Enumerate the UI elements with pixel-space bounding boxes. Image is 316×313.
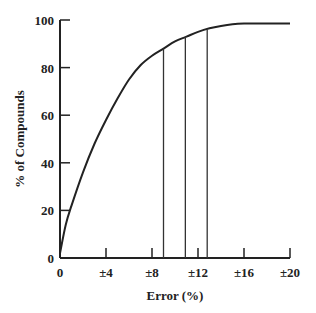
x-axis-title: Error (%) — [147, 288, 204, 303]
x-tick-label: ±12 — [188, 265, 208, 280]
x-tick-label: ±8 — [145, 265, 159, 280]
x-tick-label: 0 — [57, 265, 64, 280]
x-tick-label: ±4 — [99, 265, 113, 280]
y-tick-label: 20 — [41, 203, 54, 218]
chart: 0204060801000±4±8±12±16±20 Error (%) % o… — [0, 0, 316, 313]
y-tick-label: 40 — [41, 156, 54, 171]
plot-area — [60, 24, 290, 258]
y-tick-label: 100 — [35, 13, 55, 28]
y-tick-label: 0 — [48, 251, 55, 266]
x-tick-label: ±20 — [280, 265, 300, 280]
axes: 0204060801000±4±8±12±16±20 — [35, 13, 301, 280]
y-tick-label: 80 — [41, 61, 54, 76]
y-axis-title: % of Compounds — [12, 90, 27, 188]
y-tick-label: 60 — [41, 108, 54, 123]
x-tick-label: ±16 — [234, 265, 255, 280]
cumulative-curve — [60, 24, 290, 254]
